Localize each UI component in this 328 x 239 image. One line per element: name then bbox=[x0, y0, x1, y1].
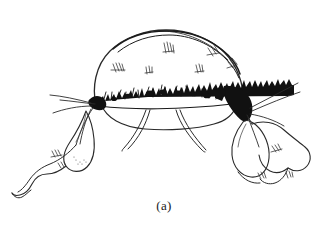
figure-caption: (a) bbox=[0, 198, 328, 214]
figure-container: (a) bbox=[0, 0, 328, 239]
